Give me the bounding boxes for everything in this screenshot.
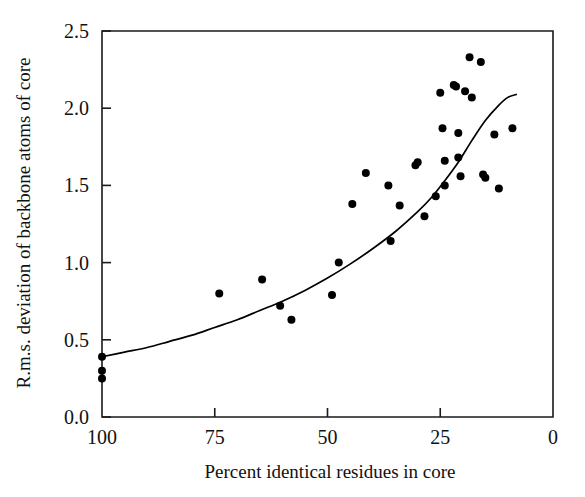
data-point — [276, 302, 284, 310]
axes-frame — [102, 31, 553, 417]
data-point — [490, 130, 498, 138]
x-axis-title: Percent identical residues in core — [204, 461, 455, 482]
data-point — [215, 289, 223, 297]
data-point — [452, 83, 460, 91]
data-point — [441, 181, 449, 189]
data-point — [287, 316, 295, 324]
data-point — [362, 169, 370, 177]
data-point — [348, 200, 356, 208]
data-point — [481, 174, 489, 182]
data-point — [98, 353, 106, 361]
figure-container: 0.00.51.01.52.02.5 1007550250 Percent id… — [0, 0, 585, 497]
x-tick-label: 0 — [548, 426, 558, 448]
data-point — [420, 212, 428, 220]
data-point — [508, 124, 516, 132]
x-tick-label: 50 — [318, 426, 338, 448]
data-point — [454, 129, 462, 137]
y-axis-ticks: 0.00.51.01.52.02.5 — [64, 20, 111, 428]
y-tick-label: 1.0 — [64, 252, 89, 274]
data-point — [495, 184, 503, 192]
y-axis-title: R.m.s. deviation of backbone atoms of co… — [13, 58, 34, 389]
y-tick-label: 0.0 — [64, 406, 89, 428]
data-point — [98, 367, 106, 375]
data-point — [457, 172, 465, 180]
data-point — [461, 87, 469, 95]
x-axis-ticks: 1007550250 — [87, 408, 558, 448]
y-tick-label: 2.0 — [64, 97, 89, 119]
x-tick-label: 100 — [87, 426, 117, 448]
data-point — [436, 89, 444, 97]
data-point — [335, 259, 343, 267]
data-point — [441, 157, 449, 165]
data-point — [414, 158, 422, 166]
data-point — [468, 93, 476, 101]
y-tick-label: 2.5 — [64, 20, 89, 42]
y-tick-label: 1.5 — [64, 174, 89, 196]
x-tick-label: 25 — [430, 426, 450, 448]
y-tick-label: 0.5 — [64, 329, 89, 351]
data-point — [477, 58, 485, 66]
data-point — [439, 124, 447, 132]
data-point — [396, 201, 404, 209]
data-point — [432, 192, 440, 200]
data-point — [328, 291, 336, 299]
data-point — [454, 154, 462, 162]
data-point — [258, 276, 266, 284]
scatter-plot: 0.00.51.01.52.02.5 1007550250 Percent id… — [0, 0, 585, 497]
data-points-group — [98, 53, 516, 382]
data-point — [387, 237, 395, 245]
data-point — [384, 181, 392, 189]
data-point — [98, 374, 106, 382]
x-tick-label: 75 — [205, 426, 225, 448]
data-point — [466, 53, 474, 61]
